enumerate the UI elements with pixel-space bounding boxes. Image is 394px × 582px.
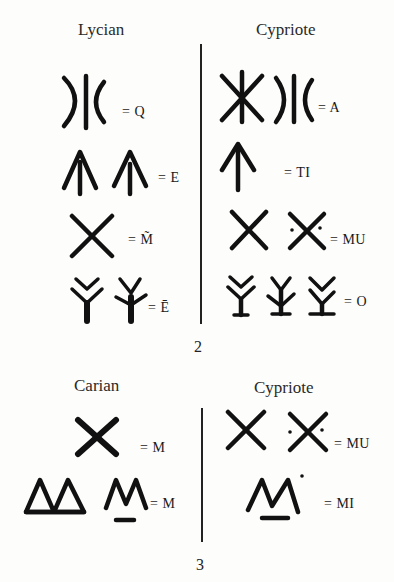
column-divider (200, 44, 202, 324)
value-m-carian-1: = M (140, 440, 165, 456)
cypriote-o-glyph-1-icon (226, 275, 256, 319)
cypriote-ti-glyph-icon (218, 140, 258, 192)
cypriote-a-glyph-1-icon (218, 70, 266, 124)
cypriote-mu-glyph-3-icon (224, 408, 270, 452)
lycian-e-macron-glyph-1-icon (70, 275, 104, 325)
value-m-carian-2: = M (150, 496, 175, 512)
heading-lycian: Lycian (78, 20, 124, 40)
cypriote-a-glyph-2-icon (272, 74, 318, 126)
cypriote-o-glyph-3-icon (306, 276, 338, 318)
heading-cypriote: Cypriote (256, 20, 316, 40)
carian-m-glyph-underlined-icon (102, 474, 150, 524)
value-mu: = MU (330, 232, 366, 248)
figure-number-2: 2 (194, 338, 202, 356)
value-q: = Q (122, 104, 145, 120)
value-a: = A (318, 100, 340, 116)
carian-m-glyph-triangles-icon (22, 474, 90, 516)
lycian-e-glyph-2-icon (110, 148, 152, 196)
value-e: = E (158, 170, 179, 186)
value-ti: = TI (284, 165, 310, 181)
lycian-m-tilde-glyph-icon (68, 212, 116, 260)
lycian-e-glyph-1-icon (60, 148, 102, 196)
carian-m-glyph-x-icon (74, 416, 120, 458)
lycian-e-macron-glyph-2-icon (114, 275, 148, 325)
heading-cypriote-2: Cypriote (254, 378, 314, 398)
cypriote-mu-glyph-1-icon (228, 208, 270, 252)
value-o: = O (344, 294, 367, 310)
value-mu-2: = MU (334, 436, 370, 452)
value-m-tilde: = M̃ (128, 232, 153, 248)
value-mi: = MI (324, 496, 355, 512)
figure-number-3: 3 (196, 556, 204, 574)
cypriote-mu-glyph-4-icon (286, 410, 330, 454)
cypriote-mu-glyph-2-icon (286, 210, 328, 252)
column-divider-2 (201, 408, 203, 542)
cypriote-mi-glyph-icon (244, 474, 308, 526)
cypriote-o-glyph-2-icon (266, 276, 296, 318)
heading-carian: Carian (74, 376, 119, 396)
value-e-macron: = Ē (148, 300, 169, 316)
lycian-q-glyph-icon (60, 74, 110, 130)
